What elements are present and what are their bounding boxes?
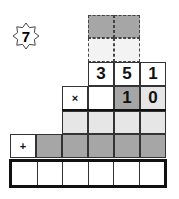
multiplier-digit [88,86,114,110]
partial-product-cell[interactable] [36,134,62,158]
result-cell[interactable] [38,162,64,185]
partial-product-cell[interactable] [62,111,88,134]
partial-product-cell[interactable] [114,134,140,158]
carry-cell[interactable] [114,15,140,38]
partial-product-cell[interactable] [114,111,140,134]
result-cell[interactable] [89,162,115,185]
result-cell[interactable] [63,162,89,185]
add-operator: + [10,134,36,158]
problem-number-badge: 7 [12,22,40,50]
partial-product-cell[interactable] [140,134,166,158]
carry-cell[interactable] [88,38,114,62]
result-row [9,159,167,188]
result-cell[interactable] [12,162,38,185]
multiplicand-digit: 3 [88,62,114,86]
problem-number: 7 [12,22,40,50]
partial-product-cell[interactable] [88,134,114,158]
multiplicand-digit: 5 [114,62,140,86]
result-cell[interactable] [114,162,140,185]
partial-product-cell[interactable] [62,134,88,158]
multiplier-digit: 1 [114,86,140,110]
partial-product-cell[interactable] [88,111,114,134]
result-cell[interactable] [140,162,165,185]
multiply-operator: × [62,86,88,110]
carry-cell[interactable] [114,38,140,62]
multiplicand-digit: 1 [140,62,166,86]
multiplier-digit: 0 [140,86,166,110]
partial-product-cell[interactable] [140,111,166,134]
carry-cell[interactable] [88,15,114,38]
